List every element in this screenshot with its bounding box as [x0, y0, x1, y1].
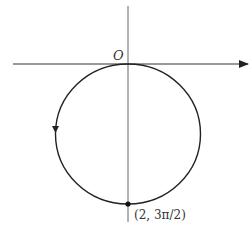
polar-diagram: O (2, 3π/2)	[0, 0, 252, 225]
point-label: (2, 3π/2)	[134, 208, 186, 222]
origin-label: O	[113, 48, 124, 63]
direction-arrow-icon	[52, 126, 59, 133]
point-dot	[125, 201, 130, 206]
